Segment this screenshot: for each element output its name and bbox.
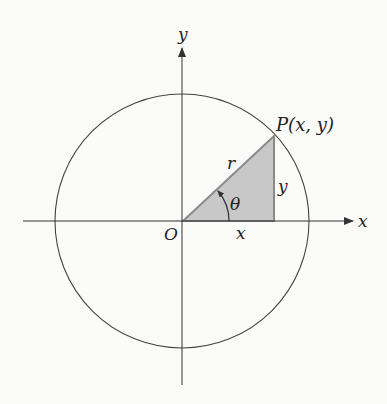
adjacent-label: x: [236, 223, 246, 243]
unit-circle-diagram: y x O P(x, y) r y x θ: [0, 0, 387, 404]
opposite-label: y: [277, 176, 288, 196]
point-label: P(x, y): [275, 114, 334, 135]
x-axis-label: x: [358, 211, 368, 231]
angle-label: θ: [230, 194, 240, 214]
y-axis-label: y: [177, 24, 188, 44]
origin-label: O: [164, 224, 178, 244]
right-triangle: [183, 136, 274, 221]
hypotenuse-label: r: [227, 153, 236, 173]
diagram-svg: y x O P(x, y) r y x θ: [0, 0, 387, 404]
